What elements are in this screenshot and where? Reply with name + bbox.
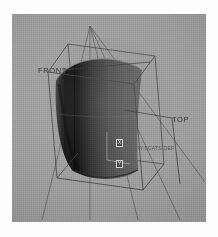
cad-viewport[interactable]: FRONT TOP DRW:SCATS.DEF X Y [12,14,206,222]
curved-surface-patch [56,58,142,178]
leader-top-drop [172,118,180,184]
screenshot-root: FRONT TOP DRW:SCATS.DEF X Y [0,0,218,237]
view-label-front: FRONT [38,66,67,75]
view-label-top: TOP [172,115,189,124]
axis-label-y: Y [116,160,123,168]
drawing-file-label: DRW:SCATS.DEF [130,145,174,151]
axis-label-x: X [116,139,123,147]
